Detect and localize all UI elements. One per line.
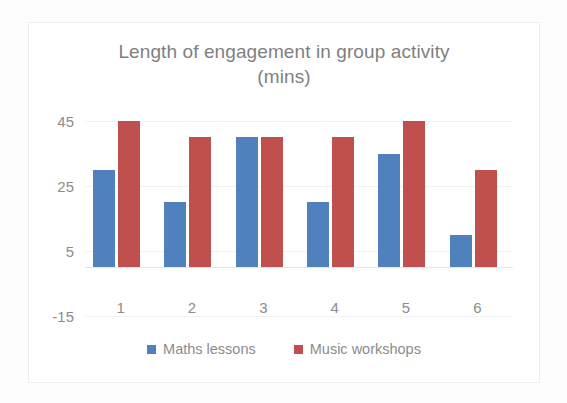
bar[interactable] [164,202,186,267]
x-axis-tick-label: 6 [442,299,512,316]
bar[interactable] [261,137,283,267]
x-axis-tick-label: 5 [371,299,441,316]
bar[interactable] [450,235,472,268]
bar[interactable] [403,121,425,267]
legend-label: Maths lessons [163,341,256,357]
scanned-page: Length of engagement in group activity (… [0,0,567,403]
legend-item[interactable]: Maths lessons [147,341,256,357]
bar[interactable] [236,137,258,267]
bar[interactable] [93,170,115,268]
y-axis-tick-label: 45 [57,113,74,130]
y-axis-tick-label: -15 [52,308,74,325]
bar[interactable] [332,137,354,267]
bar-group [85,121,156,316]
bar[interactable] [378,154,400,268]
bar-group [228,121,299,316]
x-axis-tick-label: 1 [86,299,156,316]
bar-group [299,121,370,316]
bar-group [156,121,227,316]
bar[interactable] [475,170,497,268]
chart-title-line-1: Length of engagement in group activity [118,41,449,62]
category-axis-line [85,267,513,268]
chart-title: Length of engagement in group activity (… [29,39,539,89]
legend-label: Music workshops [310,341,421,357]
x-axis-tick-label: 4 [300,299,370,316]
bar[interactable] [307,202,329,267]
bar[interactable] [118,121,140,267]
x-axis-tick-label: 3 [228,299,298,316]
bar-series-group [85,121,513,316]
legend-swatch-icon [294,345,303,354]
y-axis-tick-label: 5 [66,243,74,260]
y-axis-tick-label: 25 [57,178,74,195]
legend-item[interactable]: Music workshops [294,341,421,357]
chart-container: Length of engagement in group activity (… [28,22,540,383]
chart-title-line-2: (mins) [29,64,539,89]
chart-legend: Maths lessonsMusic workshops [29,341,539,357]
bar[interactable] [189,137,211,267]
x-axis-tick-label: 2 [157,299,227,316]
x-axis-tick-labels: 123456 [85,299,513,321]
bar-group [442,121,513,316]
bar-group [370,121,441,316]
plot-area: 45255-15 [85,121,513,316]
legend-swatch-icon [147,345,156,354]
